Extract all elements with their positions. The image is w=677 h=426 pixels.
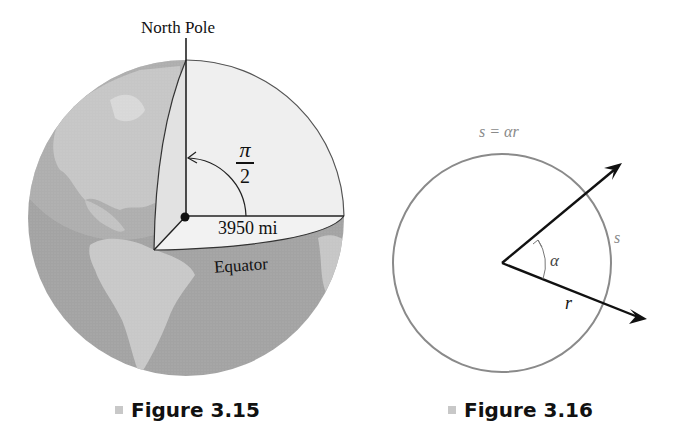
angle-label: α (550, 251, 559, 271)
caption-text: Figure 3.15 (131, 398, 260, 422)
caption-bullet-icon (115, 406, 123, 414)
arc-length-diagram (370, 0, 677, 426)
radius-label: r (565, 293, 572, 314)
arc-formula-label: s = αr (479, 123, 519, 141)
figure-3-16: s = αr s α r Figure 3.16 (370, 0, 677, 426)
caption-text: Figure 3.16 (464, 398, 593, 422)
north-pole-label: North Pole (141, 18, 215, 38)
wedge-face (186, 60, 344, 216)
globe-diagram (0, 0, 370, 426)
arrowhead-icon (629, 309, 647, 324)
caption-bullet-icon (448, 406, 456, 414)
figure-caption: Figure 3.16 (448, 398, 593, 422)
radius-label: 3950 mi (218, 218, 278, 239)
fraction-bar (236, 162, 254, 164)
angle-denominator: 2 (236, 165, 254, 187)
angle-numerator: π (236, 139, 254, 161)
center-point (181, 213, 190, 222)
figure-caption: Figure 3.15 (115, 398, 260, 422)
equator-label: Equator (213, 254, 268, 278)
figure-3-15: North Pole π 2 3950 mi Equator Figure 3.… (0, 0, 370, 426)
angle-fraction: π 2 (236, 139, 254, 187)
upper-ray (502, 170, 614, 263)
arc-label: s (614, 229, 620, 247)
